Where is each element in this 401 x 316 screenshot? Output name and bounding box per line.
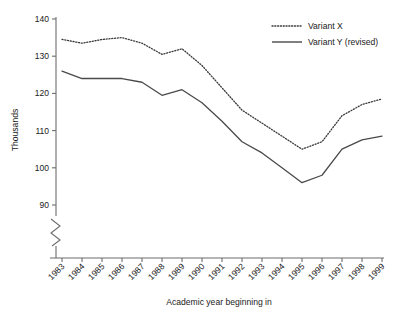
x-tick-label: 1997	[326, 261, 347, 282]
x-tick-label: 1984	[66, 261, 87, 282]
x-axis-title: Academic year beginning in	[166, 297, 272, 307]
chart-canvas: 9010011012013014019831984198519861987198…	[0, 0, 401, 316]
series-line-1	[62, 38, 382, 150]
y-axis-break-icon	[51, 219, 60, 246]
line-chart: 9010011012013014019831984198519861987198…	[0, 0, 401, 316]
x-tick-label: 1993	[246, 261, 267, 282]
x-tick-label: 1995	[286, 261, 307, 282]
x-tick-label: 1989	[166, 261, 187, 282]
x-tick-label: 1996	[306, 261, 327, 282]
legend-label-2: Variant Y (revised)	[308, 37, 378, 47]
x-tick-label: 1986	[106, 261, 127, 282]
x-tick-label: 1985	[86, 261, 107, 282]
y-tick-label: 110	[35, 126, 49, 136]
y-tick-label: 100	[35, 163, 49, 173]
x-tick-label: 1991	[206, 261, 227, 282]
x-tick-label: 1983	[46, 261, 67, 282]
y-axis-title: Thousands	[10, 109, 20, 152]
x-tick-label: 1994	[266, 261, 287, 282]
y-tick-label: 140	[35, 14, 49, 24]
y-tick-label: 130	[35, 51, 49, 61]
y-tick-label: 90	[40, 200, 50, 210]
x-tick-label: 1990	[186, 261, 207, 282]
legend-label-1: Variant X	[308, 21, 343, 31]
y-tick-label: 120	[35, 88, 49, 98]
x-tick-label: 1987	[126, 261, 147, 282]
x-tick-label: 1992	[226, 261, 247, 282]
x-tick-label: 1999	[366, 261, 387, 282]
x-tick-label: 1988	[146, 261, 167, 282]
x-tick-label: 1998	[346, 261, 367, 282]
